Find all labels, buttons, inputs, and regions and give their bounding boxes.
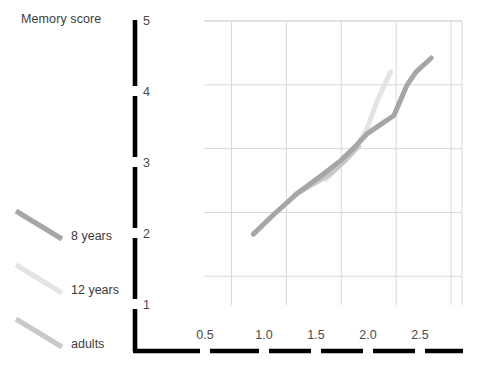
legend-label-adults: adults (71, 337, 104, 351)
x-tick-label-0-5: 0.5 (196, 328, 213, 342)
y-tick-label-5: 5 (143, 14, 150, 28)
y-tick-label-4: 4 (143, 85, 150, 99)
x-tick-label-2-5: 2.5 (411, 328, 428, 342)
legend-swatch-8-years (12, 207, 66, 243)
legend-item-8-years: 8 years (8, 205, 138, 259)
y-tick-label-1: 1 (143, 298, 150, 312)
legend-label-8-years: 8 years (71, 229, 112, 243)
plot-area (204, 21, 462, 305)
plot-canvas (204, 21, 462, 305)
chart-figure: Memory score 5 4 3 2 1 0.5 1.0 1.5 2.0 2… (0, 0, 479, 382)
y-axis-title: Memory score (21, 12, 101, 26)
x-tick-label-1-0: 1.0 (255, 328, 272, 342)
chart-legend: 8 years 12 years adults (8, 205, 138, 367)
legend-item-12-years: 12 years (8, 259, 138, 313)
legend-swatch-adults (12, 315, 66, 351)
x-tick-label-2-0: 2.0 (359, 328, 376, 342)
legend-item-adults: adults (8, 313, 138, 367)
legend-label-12-years: 12 years (71, 283, 119, 297)
y-tick-label-3: 3 (143, 156, 150, 170)
legend-swatch-12-years (12, 261, 66, 297)
x-tick-label-1-5: 1.5 (307, 328, 324, 342)
y-tick-label-2: 2 (143, 227, 150, 241)
